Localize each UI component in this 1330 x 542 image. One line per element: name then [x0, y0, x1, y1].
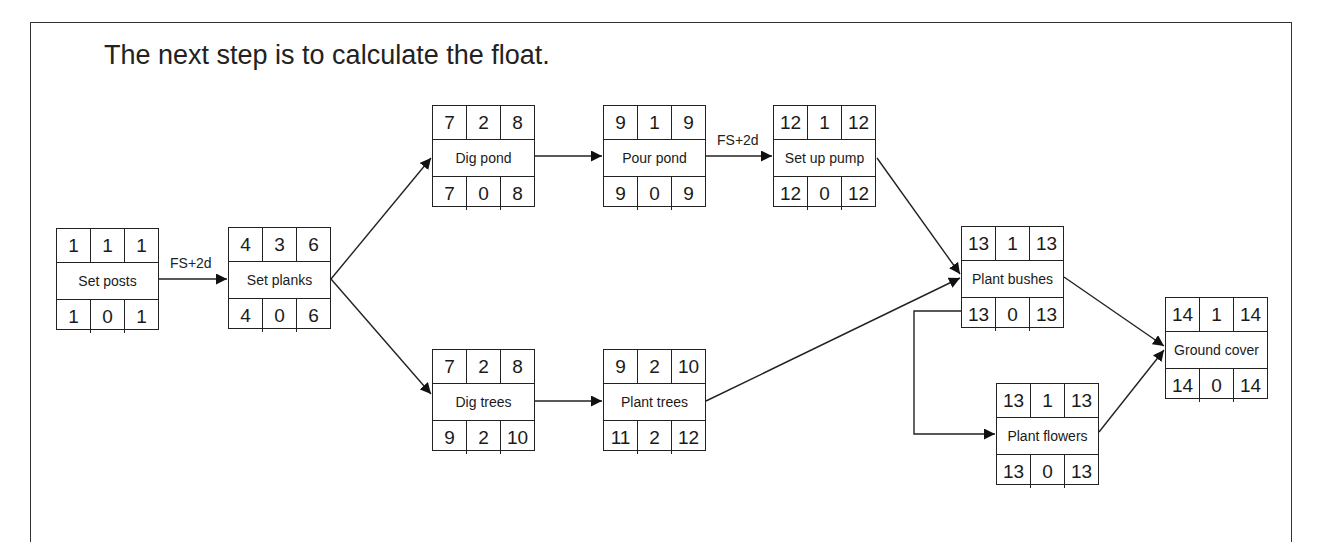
late-start: 9 — [433, 421, 466, 454]
lag-label-set-posts-set-planks: FS+2d — [170, 255, 212, 271]
late-finish: 10 — [500, 421, 534, 454]
float: 0 — [807, 177, 841, 210]
late-finish: 12 — [841, 177, 875, 210]
float: 0 — [995, 298, 1029, 331]
duration: 1 — [637, 106, 671, 139]
early-start: 4 — [229, 228, 262, 261]
early-start: 7 — [433, 350, 466, 383]
duration: 2 — [466, 106, 500, 139]
float: 0 — [466, 177, 500, 210]
edge-plant-flowers-ground-cover — [1099, 350, 1164, 432]
early-start: 12 — [774, 106, 807, 139]
task-name: Plant bushes — [962, 260, 1063, 298]
task-name: Pour pond — [604, 139, 705, 177]
early-start: 7 — [433, 106, 466, 139]
early-finish: 8 — [500, 350, 534, 383]
early-start: 9 — [604, 106, 637, 139]
task-name: Dig trees — [433, 383, 534, 421]
duration: 1 — [995, 227, 1029, 260]
early-finish: 8 — [500, 106, 534, 139]
early-finish: 1 — [124, 229, 158, 262]
node-plant-trees: 9 2 10 Plant trees 11 2 12 — [603, 349, 706, 451]
late-start: 11 — [604, 421, 637, 454]
early-finish: 9 — [671, 106, 705, 139]
late-finish: 8 — [500, 177, 534, 210]
node-pour-pond: 9 1 9 Pour pond 9 0 9 — [603, 105, 706, 207]
node-dig-pond: 7 2 8 Dig pond 7 0 8 — [432, 105, 535, 207]
task-name: Set posts — [57, 262, 158, 300]
task-name: Ground cover — [1166, 331, 1267, 369]
task-name: Dig pond — [433, 139, 534, 177]
late-start: 13 — [962, 298, 995, 331]
task-name: Set up pump — [774, 139, 875, 177]
float: 0 — [1030, 455, 1064, 488]
float: 2 — [637, 421, 671, 454]
late-finish: 1 — [124, 300, 158, 333]
float: 0 — [637, 177, 671, 210]
late-start: 7 — [433, 177, 466, 210]
late-finish: 13 — [1029, 298, 1063, 331]
edge-set-planks-dig-trees — [331, 279, 431, 394]
early-start: 9 — [604, 350, 637, 383]
duration: 1 — [807, 106, 841, 139]
node-ground-cover: 14 1 14 Ground cover 14 0 14 — [1165, 297, 1268, 399]
edge-plant-bushes-ground-cover — [1064, 277, 1164, 346]
late-finish: 12 — [671, 421, 705, 454]
late-start: 12 — [774, 177, 807, 210]
late-finish: 9 — [671, 177, 705, 210]
late-finish: 13 — [1064, 455, 1098, 488]
early-start: 13 — [997, 384, 1030, 417]
edge-set-planks-dig-pond — [331, 158, 431, 279]
float: 2 — [466, 421, 500, 454]
early-finish: 6 — [296, 228, 330, 261]
lag-label-pour-pond-set-up-pump: FS+2d — [717, 132, 759, 148]
duration: 2 — [466, 350, 500, 383]
duration: 1 — [1199, 298, 1233, 331]
early-finish: 12 — [841, 106, 875, 139]
duration: 3 — [262, 228, 296, 261]
early-start: 1 — [57, 229, 90, 262]
late-start: 4 — [229, 299, 262, 332]
early-start: 13 — [962, 227, 995, 260]
node-set-planks: 4 3 6 Set planks 4 0 6 — [228, 227, 331, 329]
early-finish: 10 — [671, 350, 705, 383]
node-plant-bushes: 13 1 13 Plant bushes 13 0 13 — [961, 226, 1064, 328]
early-start: 14 — [1166, 298, 1199, 331]
node-set-up-pump: 12 1 12 Set up pump 12 0 12 — [773, 105, 876, 207]
task-name: Set planks — [229, 261, 330, 299]
late-start: 9 — [604, 177, 637, 210]
float: 0 — [1199, 369, 1233, 402]
edge-plant-trees-plant-bushes — [706, 278, 960, 401]
node-plant-flowers: 13 1 13 Plant flowers 13 0 13 — [996, 383, 1099, 485]
duration: 1 — [1030, 384, 1064, 417]
task-name: Plant flowers — [997, 417, 1098, 455]
task-name: Plant trees — [604, 383, 705, 421]
float: 0 — [262, 299, 296, 332]
early-finish: 13 — [1029, 227, 1063, 260]
duration: 1 — [90, 229, 124, 262]
node-set-posts: 1 1 1 Set posts 1 0 1 — [56, 228, 159, 330]
duration: 2 — [637, 350, 671, 383]
late-start: 13 — [997, 455, 1030, 488]
late-start: 1 — [57, 300, 90, 333]
node-dig-trees: 7 2 8 Dig trees 9 2 10 — [432, 349, 535, 451]
edge-set-up-pump-plant-bushes — [877, 158, 960, 274]
late-start: 14 — [1166, 369, 1199, 402]
early-finish: 14 — [1233, 298, 1267, 331]
late-finish: 14 — [1233, 369, 1267, 402]
late-finish: 6 — [296, 299, 330, 332]
float: 0 — [90, 300, 124, 333]
early-finish: 13 — [1064, 384, 1098, 417]
